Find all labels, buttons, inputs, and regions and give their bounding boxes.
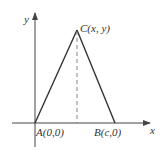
triangle-diagram: y x C(x, y) A(0,0) B(c,0) <box>0 0 167 154</box>
point-A-label: A(0,0) <box>36 127 64 138</box>
side-CB <box>77 30 115 123</box>
point-B-label: B(c,0) <box>94 127 121 138</box>
x-axis-label: x <box>150 125 155 136</box>
side-AC <box>35 30 77 123</box>
point-C-label: C(x, y) <box>80 23 110 34</box>
y-axis-label: y <box>24 14 29 25</box>
